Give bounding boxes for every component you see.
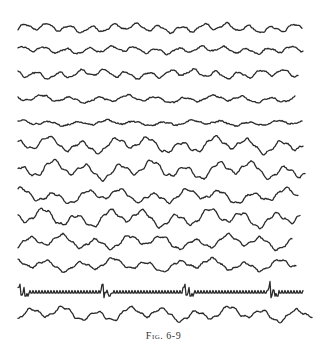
figure-caption: Fig. 6-9 [0, 330, 327, 341]
wave-trace-3 [18, 69, 298, 79]
wave-trace-1 [18, 22, 302, 33]
wave-trace-2 [18, 46, 303, 55]
wave-trace-5 [18, 119, 302, 126]
wave-trace-13 [18, 306, 312, 323]
wave-trace-6 [18, 136, 303, 155]
trace-group [18, 22, 312, 323]
wave-trace-7 [18, 159, 305, 181]
wave-trace-12 [18, 282, 303, 298]
wave-figure [0, 0, 327, 357]
wave-trace-10 [18, 233, 292, 251]
wave-trace-4 [18, 94, 295, 103]
wave-trace-11 [18, 257, 296, 272]
wave-trace-9 [18, 208, 300, 229]
wave-trace-8 [18, 187, 298, 204]
